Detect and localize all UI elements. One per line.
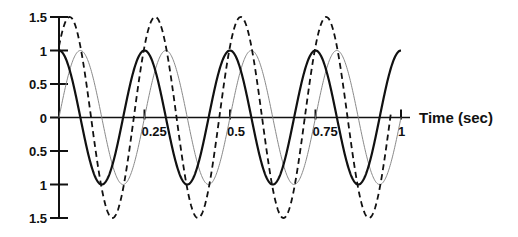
y-tick-label: 0.5 [29,144,47,159]
y-tick-label: 1.5 [29,10,47,25]
y-tick-label: 1.5 [29,211,47,226]
x-tick-label: 0.75 [313,124,338,139]
line-chart: 1.510.500.511.5 0.250.50.751 Time (sec) [0,0,518,237]
y-tick-label: 1 [40,178,47,193]
y-tick-label: 1 [40,44,47,59]
y-tick-label: 0 [40,111,47,126]
x-axis-title: Time (sec) [419,109,493,126]
x-tick-label: 0.5 [227,124,245,139]
x-tick-label: 0.25 [142,124,167,139]
y-tick-label: 0.5 [29,77,47,92]
